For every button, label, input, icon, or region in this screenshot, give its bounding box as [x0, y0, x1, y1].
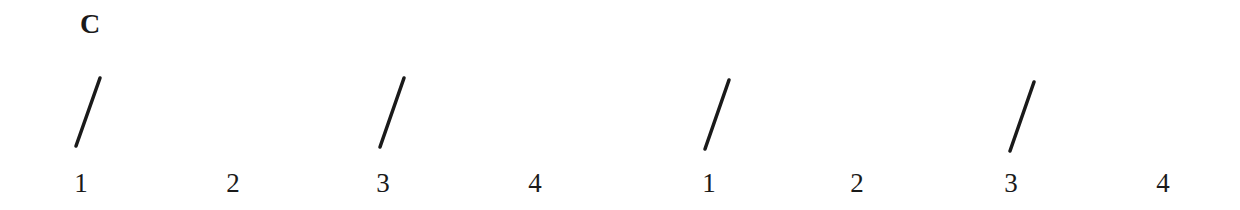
beat-number: 2 [226, 170, 240, 197]
beat-number: 4 [1156, 170, 1170, 197]
slash-marks [0, 0, 1240, 210]
slash-mark-g1-b1 [76, 78, 100, 146]
beat-number: 3 [1004, 170, 1018, 197]
beat-number: 1 [702, 170, 716, 197]
slash-mark-g2-b1 [705, 80, 729, 149]
beat-number: 4 [528, 170, 542, 197]
beat-number: 2 [850, 170, 864, 197]
beat-number: 3 [376, 170, 390, 197]
slash-mark-g2-b3 [1010, 82, 1034, 151]
slash-mark-g1-b3 [380, 78, 404, 147]
beat-number: 1 [74, 170, 88, 197]
